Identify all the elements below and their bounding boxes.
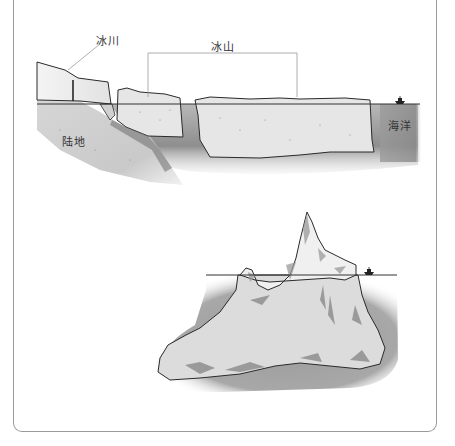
glacier (37, 62, 111, 104)
label-ocean: 海洋 (388, 117, 411, 133)
label-iceberg: 冰山 (211, 38, 234, 54)
iceberg-profile (150, 212, 398, 392)
iceberg-bracket (148, 53, 297, 97)
iceberg-illustration (0, 0, 455, 446)
iceberg-large (195, 97, 374, 158)
ship-icon (395, 96, 405, 104)
ship-icon (364, 267, 374, 275)
label-glacier: 冰川 (96, 32, 119, 48)
glacier-cross-section (37, 44, 422, 185)
label-land: 陆地 (62, 133, 85, 149)
